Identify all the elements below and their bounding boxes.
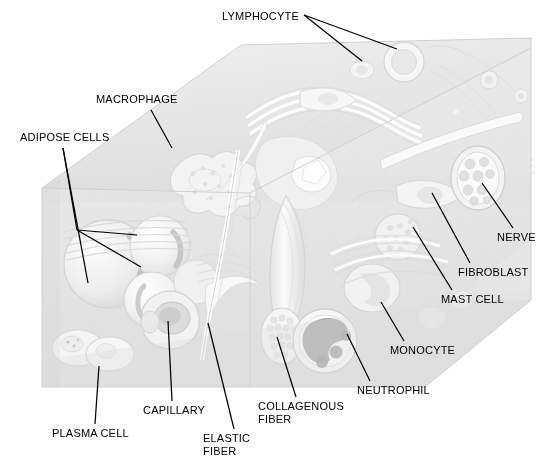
label-fibroblast: FIBROBLAST [458,266,528,279]
label-capillary: CAPILLARY [143,404,205,417]
label-macrophage: MACROPHAGE [96,93,177,106]
label-adipose-cells: ADIPOSE CELLS [20,131,109,144]
label-monocyte: MONOCYTE [390,344,455,357]
label-lymphocyte: LYMPHOCYTE [222,10,299,23]
label-nerve: NERVE [497,231,536,244]
connective-tissue-figure: LYMPHOCYTEMACROPHAGEADIPOSE CELLSNERVEFI… [0,0,553,469]
label-layer: LYMPHOCYTEMACROPHAGEADIPOSE CELLSNERVEFI… [0,0,553,469]
label-collagenous-fiber: COLLAGENOUS FIBER [258,400,344,425]
label-mast-cell: MAST CELL [441,293,504,306]
label-plasma-cell: PLASMA CELL [52,427,129,440]
label-elastic-fiber: ELASTIC FIBER [203,432,250,457]
label-neutrophil: NEUTROPHIL [357,384,430,397]
